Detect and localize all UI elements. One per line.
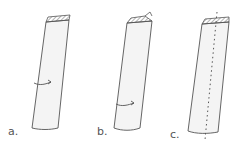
panel-b-tube	[114, 12, 152, 130]
illustration-canvas	[0, 0, 240, 147]
panel-b-label: b.	[97, 126, 107, 137]
panel-a-label: a.	[8, 126, 18, 137]
panel-c-label: c.	[170, 129, 180, 140]
panel-a-tube	[32, 15, 70, 130]
folded-corner	[145, 12, 152, 16]
tube-folding-illustration: a. b. c.	[0, 0, 240, 147]
panel-c-tube	[188, 12, 229, 140]
